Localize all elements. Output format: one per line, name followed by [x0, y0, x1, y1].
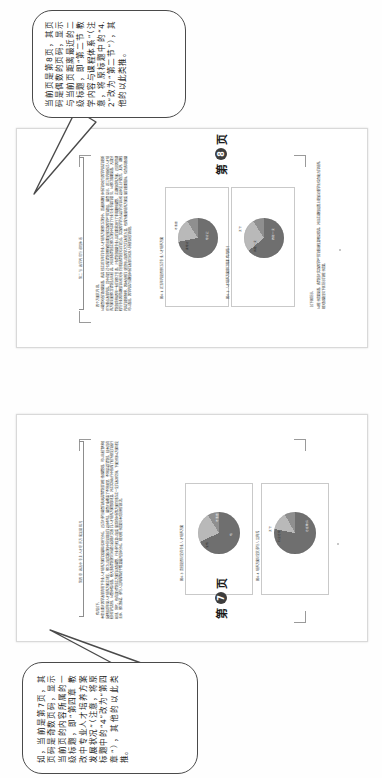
page-7-head-tick-bottom	[79, 616, 84, 617]
page8-figure-2-frame[interactable]: 四年一次 两年一次 其他	[231, 187, 295, 307]
page7-fig2-slice-0-label: 专任教师	[306, 520, 309, 532]
callout-bottom-text: 如，当前是第7页，其页码是奇数页码，显示当前页的内容所属的一级标题，即“第四章 …	[37, 675, 187, 763]
page8-figure-2-pie	[244, 218, 284, 258]
callout-bottom[interactable]: 如，当前是第7页，其页码是奇数页码，显示当前页的内容所属的一级标题，即“第四章 …	[22, 662, 198, 774]
page-8-running-head: 第二节 教学内容与课程体系	[79, 237, 83, 279]
folio-number: 8	[215, 148, 227, 160]
folio-prefix: 第	[213, 607, 229, 619]
page-7-content: 第四章 教改中专业人才培养方案发展状况 情况如下。 本章主要对教学改革背景下专业…	[17, 415, 367, 641]
callout-top-tail	[28, 108, 148, 198]
scan-speck	[339, 249, 341, 251]
page-8-side-note: 如下图所示。	[309, 288, 314, 307]
page-8-body-note: 四个方面的内容。	[95, 282, 100, 307]
scanned-document-canvas: 第二节 教学内容与课程体系 四个方面的内容。 从调查问卷的数据来看，各高校在近五…	[0, 0, 382, 778]
page7-fig2-slice-1-label: 行业专家	[278, 530, 281, 542]
folio-prefix: 第	[213, 163, 229, 175]
document-page-7[interactable]: 第四章 教改中专业人才培养方案发展状况 情况如下。 本章主要对教学改革背景下专业…	[16, 414, 368, 642]
page7-figure-2-frame[interactable]: 专任教师 行业专家 其他	[261, 483, 329, 595]
page8-fig1-slice-0-label: 修订过	[206, 231, 209, 240]
page8-figure-1-caption: 图4-1 近五年内是否修订过专业人才培养方案	[159, 237, 164, 299]
page7-fig1-slice-1-label: 没有	[206, 542, 209, 548]
page-7-running-head: 第四章 教改中专业人才培养方案发展状况	[79, 520, 83, 583]
page-7-head-tick-top	[79, 441, 84, 442]
page8-figure-1-pie	[178, 218, 218, 258]
page-7-body-text: 本章主要对教学改革背景下专业人才培养方案的发展状况进行分析。通过对参与调查的各类…	[101, 441, 165, 619]
folio-suffix: 页	[213, 133, 229, 145]
callout-top[interactable]: 当前页是第8页，其页码是偶数的页码，显示与当前页距离最近的二级标题，即“第二节 …	[32, 10, 186, 118]
page8-fig2-slice-2-label: 其他	[238, 226, 242, 232]
page7-figure-1-caption: 图4-3 贵校是否制定有专业人才培养方案	[179, 525, 184, 581]
page8-fig2-slice-0-label: 四年一次	[272, 228, 275, 240]
page8-fig1-slice-1-label: 未修订	[186, 241, 189, 250]
page-8-head-tick-bottom	[79, 309, 84, 310]
crop-mark-top-right	[294, 155, 306, 167]
callout-top-text: 当前页是第8页，其页码是偶数的页码，显示与当前页距离最近的二级标题，即“第二节 …	[45, 21, 175, 107]
crop-mark-bottom-left	[79, 311, 91, 323]
folio-suffix: 页	[213, 577, 229, 589]
page8-fig2-slice-1-label: 两年一次	[254, 240, 257, 252]
page-8-side-text: 从统计结果来看，各院校对实践教学环节的重视程度明显提高，并且在课程设置上更加注重…	[317, 159, 351, 309]
page-7-head-rule	[83, 441, 84, 617]
page8-figure-2-caption: 图4-2 人才培养方案修订周期情况统计	[225, 246, 230, 299]
page7-fig1-slice-0-label: 有	[230, 533, 233, 536]
page-8-folio: 第 8 页	[213, 133, 229, 175]
page-7-folio: 第 7 页	[213, 577, 229, 619]
page7-fig2-slice-2-label: 其他	[268, 526, 272, 532]
page7-figure-2-caption: 图4-4 培养方案制定的参与人员构成	[255, 531, 260, 581]
folio-number: 7	[215, 592, 227, 604]
scan-speck	[337, 543, 339, 545]
crop-mark-top-right	[294, 439, 306, 451]
page8-fig1-slice-2-label: 不清楚	[174, 221, 178, 230]
crop-mark-bottom-right	[294, 611, 306, 623]
page8-figure-1-frame[interactable]: 修订过 未修订 不清楚	[165, 187, 229, 307]
page7-fig1-slice-2-label: 不清楚	[216, 513, 219, 522]
page-7-body-note: 情况如下。	[95, 600, 100, 616]
